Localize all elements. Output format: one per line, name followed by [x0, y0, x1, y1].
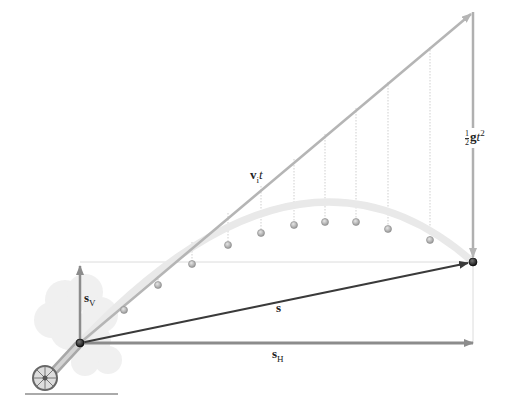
- one-half-fraction: 12: [465, 130, 469, 147]
- vit-vector: [80, 14, 471, 343]
- half-g-t-squared-label: 12gt2: [465, 128, 485, 148]
- launch-point: [76, 339, 84, 347]
- vertical-component-label: sV: [84, 291, 96, 308]
- cannon-wheel: [33, 366, 57, 390]
- horizontal-component-label: sH: [272, 347, 284, 364]
- projectile-diagram: [0, 0, 507, 412]
- displacement-vector: [80, 263, 468, 343]
- trajectory-path: [80, 202, 473, 343]
- smoke-cloud: [34, 274, 122, 376]
- displacement-s-label: s: [276, 301, 281, 314]
- landing-ball: [469, 258, 477, 266]
- vit-label: vit: [250, 168, 263, 185]
